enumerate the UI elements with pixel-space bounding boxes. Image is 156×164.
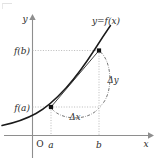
delta-y-label: Δy — [107, 75, 119, 85]
y-axis-arrowhead — [29, 14, 35, 20]
axes-group — [4, 14, 154, 158]
guide-lines-group — [33, 51, 101, 136]
curve-equation-label: y=f(x) — [91, 16, 121, 26]
x-axis-arrowhead — [148, 132, 154, 138]
delta-x-label: Δx — [69, 112, 81, 122]
fb-tick-label: f(b) — [13, 46, 31, 56]
fa-tick-label: f(a) — [13, 103, 30, 113]
figure-container: y x O f(b) f(a) a b y=f(x) Δy Δx — [0, 0, 156, 164]
x-axis-label: x — [143, 139, 148, 149]
function-graph-svg: y x O f(b) f(a) a b y=f(x) Δy Δx — [0, 0, 156, 164]
point-a-marker — [49, 105, 53, 109]
a-tick-label: a — [48, 140, 53, 150]
secant-line — [51, 51, 99, 108]
point-b-marker — [97, 48, 101, 52]
y-axis-label: y — [21, 14, 28, 24]
b-tick-label: b — [96, 140, 102, 150]
origin-label: O — [36, 139, 43, 149]
